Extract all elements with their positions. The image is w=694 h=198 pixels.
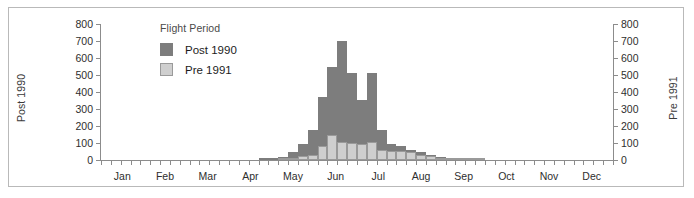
x-tick-week-26 <box>357 160 358 165</box>
y-tick-right-400 <box>613 92 618 93</box>
bar-segment-pre-1991-week-27 <box>367 142 377 160</box>
bar-segment-pre-1991-week-37 <box>465 158 475 160</box>
x-tick-week-34 <box>436 160 437 165</box>
y-tick-label-right-0: 0 <box>621 155 661 166</box>
x-tick-week-43 <box>524 160 525 165</box>
bar-week-36 <box>455 159 465 160</box>
bar-segment-pre-1991-week-30 <box>396 151 406 160</box>
legend-swatch-post-1990 <box>160 43 173 56</box>
bar-segment-pre-1991-week-26 <box>357 144 367 160</box>
y-tick-left-200 <box>96 126 101 127</box>
x-tick-week-44 <box>534 160 535 165</box>
x-tick-week-50 <box>593 160 594 165</box>
x-tick-week-21 <box>308 160 309 165</box>
y-tick-right-300 <box>613 109 618 110</box>
x-tick-week-2 <box>121 160 122 165</box>
x-tick-week-37 <box>465 160 466 165</box>
y-tick-label-right-100: 100 <box>621 138 661 149</box>
bar-segment-post-1990-week-16 <box>259 158 269 160</box>
x-tick-week-42 <box>515 160 516 165</box>
x-tick-week-31 <box>406 160 407 165</box>
x-tick-week-11 <box>209 160 210 165</box>
y-tick-right-800 <box>613 24 618 25</box>
x-tick-week-3 <box>131 160 132 165</box>
x-tick-week-41 <box>505 160 506 165</box>
bar-week-16 <box>259 159 269 160</box>
bar-week-19 <box>288 152 298 161</box>
x-axis-label-feb: Feb <box>156 170 174 182</box>
x-axis-label-oct: Oct <box>498 170 514 182</box>
x-axis-label-dec: Dec <box>582 170 601 182</box>
x-tick-week-39 <box>485 160 486 165</box>
x-tick-week-22 <box>318 160 319 165</box>
x-tick-week-51 <box>603 160 604 165</box>
bar-week-21 <box>308 130 318 160</box>
x-tick-week-46 <box>554 160 555 165</box>
y-tick-label-right-400: 400 <box>621 87 661 98</box>
bar-segment-pre-1991-week-19 <box>288 158 298 160</box>
bar-week-30 <box>396 146 406 160</box>
y-tick-right-200 <box>613 126 618 127</box>
bar-week-27 <box>367 73 377 160</box>
bar-segment-pre-1991-week-25 <box>347 143 357 160</box>
chart-legend: Flight Period Post 1990 Pre 1991 <box>160 22 300 83</box>
bar-segment-pre-1991-week-33 <box>426 156 436 160</box>
bar-segment-pre-1991-week-21 <box>308 155 318 160</box>
y-tick-label-left-400: 400 <box>53 87 93 98</box>
x-tick-week-15 <box>249 160 250 165</box>
y-tick-label-right-700: 700 <box>621 36 661 47</box>
x-tick-week-30 <box>396 160 397 165</box>
bar-week-25 <box>347 73 357 160</box>
x-tick-week-6 <box>160 160 161 165</box>
x-axis-label-aug: Aug <box>412 170 431 182</box>
y-tick-label-right-500: 500 <box>621 70 661 81</box>
x-tick-week-19 <box>288 160 289 165</box>
x-tick-week-5 <box>150 160 151 165</box>
bar-week-32 <box>416 152 426 160</box>
bar-segment-post-1990-week-17 <box>268 158 278 160</box>
right-axis-title: Pre 1991 <box>667 56 679 140</box>
bar-segment-pre-1991-week-32 <box>416 155 426 160</box>
x-tick-week-27 <box>367 160 368 165</box>
x-tick-week-14 <box>239 160 240 165</box>
bar-week-17 <box>268 158 278 160</box>
y-tick-label-right-800: 800 <box>621 19 661 30</box>
y-tick-right-600 <box>613 58 618 59</box>
x-tick-week-29 <box>387 160 388 165</box>
bar-week-31 <box>406 150 416 160</box>
x-tick-week-17 <box>268 160 269 165</box>
left-axis-title: Post 1990 <box>15 56 27 140</box>
x-tick-week-28 <box>377 160 378 165</box>
x-tick-week-38 <box>475 160 476 165</box>
y-tick-right-700 <box>613 41 618 42</box>
bar-week-33 <box>426 155 436 160</box>
x-tick-week-36 <box>455 160 456 165</box>
bar-week-35 <box>446 158 456 160</box>
y-tick-right-500 <box>613 75 618 76</box>
y-tick-left-600 <box>96 58 101 59</box>
x-tick-week-40 <box>495 160 496 165</box>
x-axis-label-jan: Jan <box>114 170 131 182</box>
bar-segment-pre-1991-week-31 <box>406 152 416 160</box>
x-tick-week-47 <box>564 160 565 165</box>
x-tick-week-0 <box>101 160 102 165</box>
x-axis-label-sep: Sep <box>454 170 473 182</box>
y-tick-left-100 <box>96 143 101 144</box>
x-tick-week-33 <box>426 160 427 165</box>
bar-week-29 <box>387 144 397 160</box>
legend-item-pre-1991: Pre 1991 <box>160 63 300 76</box>
y-tick-label-left-200: 200 <box>53 121 93 132</box>
y-tick-left-700 <box>96 41 101 42</box>
x-tick-week-13 <box>229 160 230 165</box>
bar-segment-pre-1991-week-36 <box>455 158 465 160</box>
y-tick-label-right-200: 200 <box>621 121 661 132</box>
y-tick-label-left-700: 700 <box>53 36 93 47</box>
bar-week-22 <box>318 97 328 160</box>
x-tick-week-1 <box>111 160 112 165</box>
x-tick-week-25 <box>347 160 348 165</box>
y-tick-label-right-600: 600 <box>621 53 661 64</box>
x-axis-label-may: May <box>283 170 303 182</box>
x-tick-week-24 <box>337 160 338 165</box>
x-tick-week-16 <box>259 160 260 165</box>
bar-week-23 <box>327 67 337 160</box>
